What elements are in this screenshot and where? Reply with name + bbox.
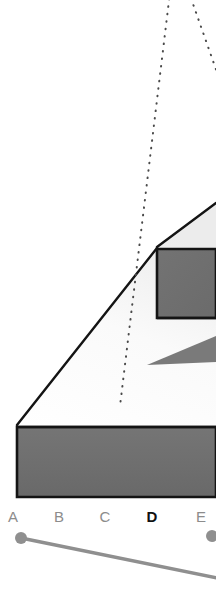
range-slider[interactable]	[0, 528, 216, 594]
axis-label-e[interactable]: E	[192, 506, 210, 528]
front-base-face[interactable]	[17, 427, 216, 497]
horizontal-axis-labels: A B C D E	[0, 506, 216, 530]
axis-label-a[interactable]: A	[4, 506, 22, 528]
upper-step-face[interactable]	[157, 249, 216, 318]
slider-track[interactable]	[21, 538, 216, 581]
slider-handle-end[interactable]	[206, 530, 216, 542]
axis-label-c[interactable]: C	[96, 506, 114, 528]
slider-handle-start[interactable]	[15, 532, 27, 544]
range-slider-canvas[interactable]	[0, 528, 216, 594]
3d-model-viewport[interactable]: A B C D E	[0, 0, 216, 594]
axis-label-d[interactable]: D	[143, 506, 161, 528]
axis-label-b[interactable]: B	[50, 506, 68, 528]
projection-line-right	[186, 0, 216, 78]
model-canvas[interactable]	[0, 0, 216, 594]
